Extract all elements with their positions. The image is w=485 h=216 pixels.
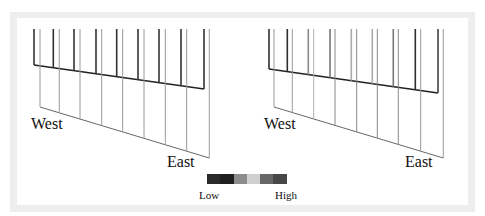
upper-axis-line [269,69,438,93]
legend-swatch [220,174,233,184]
west-label-right: West [264,116,296,132]
legend-high-label: High [275,190,297,201]
legend-swatch [273,174,286,184]
legend-swatch [207,174,220,184]
lower-axis-line [40,107,209,158]
west-label-left: West [31,116,63,132]
legend-swatch [260,174,273,184]
legend-low-label: Low [199,190,219,201]
color-legend-bar [207,174,287,184]
lower-axis-line [274,107,443,158]
legend-swatch [247,174,260,184]
east-label-right: East [405,154,433,170]
east-label-left: East [167,154,195,170]
legend-swatch [234,174,247,184]
